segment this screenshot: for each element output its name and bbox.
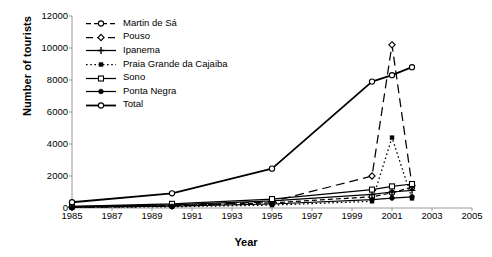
x-axis-title: Year	[0, 236, 492, 248]
data-point-marker	[370, 197, 375, 202]
line-open-circle-icon	[84, 98, 120, 111]
x-tick-label: 1987	[92, 211, 132, 221]
chart-legend: Martin de SáPousoIpanemaPraia Grande da …	[84, 16, 228, 111]
data-point-marker	[389, 73, 394, 78]
data-point-marker	[98, 48, 105, 55]
legend-item: Pouso	[84, 30, 228, 44]
legend-label: Martin de Sá	[120, 18, 177, 28]
legend-item: Sono	[84, 70, 228, 84]
data-point-marker	[69, 200, 74, 205]
data-point-marker	[170, 204, 175, 209]
x-tick-label: 1989	[132, 211, 172, 221]
data-point-marker	[270, 202, 275, 207]
legend-label: Ponta Negra	[120, 86, 176, 96]
line-filled-circle-icon	[84, 84, 120, 97]
x-tick-label: 1991	[172, 211, 212, 221]
y-axis-tick-labels: 020004000600080001000012000	[22, 0, 68, 224]
y-tick-label: 10000	[28, 43, 68, 53]
data-point-marker	[410, 182, 415, 187]
data-point-marker	[169, 191, 174, 196]
data-point-marker	[99, 62, 103, 66]
x-axis-tick-labels: 1985198719891991199319951997199920012003…	[72, 211, 472, 227]
x-tick-label: 1985	[52, 211, 92, 221]
data-point-marker	[369, 173, 375, 179]
legend-item: Ponta Negra	[84, 84, 228, 98]
x-tick-label: 1997	[292, 211, 332, 221]
data-point-marker	[270, 197, 275, 202]
data-point-marker	[98, 34, 104, 40]
chart-figure: Number of tourists 020004000600080001000…	[0, 0, 492, 257]
data-point-marker	[390, 196, 395, 201]
data-point-marker	[410, 195, 415, 200]
data-point-marker	[269, 166, 274, 171]
legend-label: Total	[120, 99, 143, 109]
legend-item: Martin de Sá	[84, 16, 228, 30]
line-open-diamond-icon	[84, 30, 120, 43]
data-point-marker	[98, 103, 103, 108]
legend-item: Total	[84, 98, 228, 112]
legend-label: Ipanema	[120, 45, 160, 55]
data-point-marker	[390, 184, 395, 189]
data-point-marker	[70, 205, 75, 210]
legend-label: Sono	[120, 72, 145, 82]
x-tick-label: 1999	[332, 211, 372, 221]
data-point-marker	[409, 65, 414, 70]
y-tick-label: 6000	[28, 107, 68, 117]
y-tick-label: 2000	[28, 171, 68, 181]
legend-item: Ipanema	[84, 43, 228, 57]
data-point-marker	[99, 89, 104, 94]
y-tick-label: 4000	[28, 139, 68, 149]
line-open-square-icon	[84, 71, 120, 84]
x-tick-label: 2003	[412, 211, 452, 221]
legend-label: Praia Grande da Cajaiba	[120, 59, 228, 69]
data-point-marker	[98, 21, 103, 26]
data-point-marker	[390, 135, 394, 139]
legend-item: Praia Grande da Cajaiba	[84, 57, 228, 71]
data-point-marker	[99, 76, 104, 81]
x-tick-label: 2005	[452, 211, 492, 221]
legend-label: Pouso	[120, 31, 150, 41]
x-tick-label: 1995	[252, 211, 292, 221]
y-tick-label: 12000	[28, 11, 68, 21]
dotted-filled-square-icon	[84, 57, 120, 70]
data-point-marker	[370, 187, 375, 192]
x-tick-label: 1993	[212, 211, 252, 221]
x-tick-label: 2001	[372, 211, 412, 221]
data-point-marker	[389, 42, 395, 48]
data-point-marker	[369, 79, 374, 84]
line-plus-icon	[84, 43, 120, 56]
dashed-open-circle-icon	[84, 16, 120, 29]
y-tick-label: 8000	[28, 75, 68, 85]
